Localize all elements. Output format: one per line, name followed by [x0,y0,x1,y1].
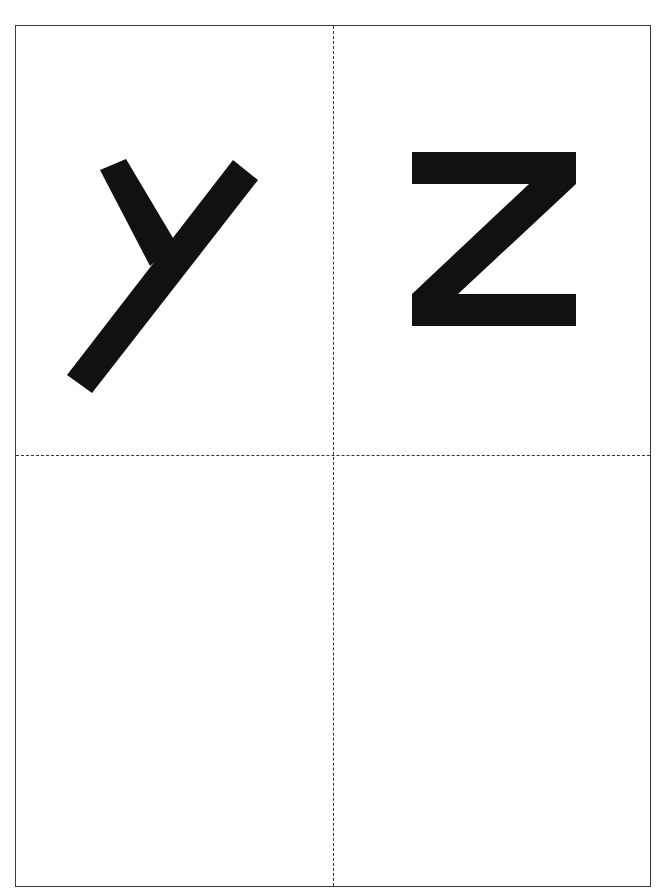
letter-y-glyph [67,159,258,393]
letters-layer [0,0,667,891]
letter-z-glyph [412,152,576,326]
